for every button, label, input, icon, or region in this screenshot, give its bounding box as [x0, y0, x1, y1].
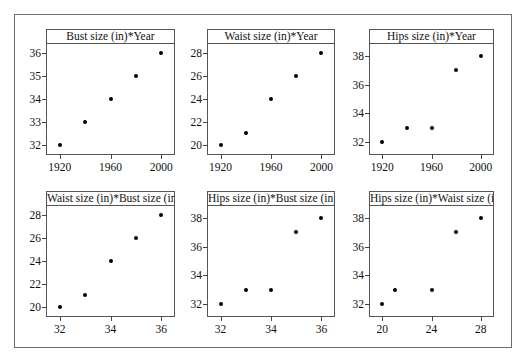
x-axis-tick: [382, 316, 383, 321]
x-axis-tick: [60, 154, 61, 159]
data-point: [405, 126, 409, 130]
x-axis-tick-label: 2000: [310, 161, 333, 173]
y-axis-tick: [203, 99, 208, 100]
y-axis-tick: [42, 122, 47, 123]
x-axis-tick-label: 32: [215, 323, 227, 335]
x-axis-tick: [221, 154, 222, 159]
data-point: [159, 213, 163, 217]
y-axis-tick-label: 26: [191, 70, 203, 82]
data-point: [454, 230, 458, 234]
x-axis-tick: [111, 316, 112, 321]
data-point: [219, 302, 223, 306]
y-axis-tick: [42, 76, 47, 77]
plot-area: 3233343536192019602000: [46, 44, 175, 155]
panel-title: Hips size (in)*Bust size (in): [207, 191, 335, 206]
data-point: [294, 230, 298, 234]
y-axis-tick-label: 34: [30, 93, 42, 105]
data-point: [430, 288, 434, 292]
x-axis-tick-label: 2000: [150, 161, 173, 173]
x-axis-tick: [271, 154, 272, 159]
x-axis-tick-label: 34: [105, 323, 117, 335]
x-axis-tick-label: 1960: [420, 161, 443, 173]
x-axis-tick-label: 28: [475, 323, 487, 335]
y-axis-tick: [42, 261, 47, 262]
panel-title: Bust size (in)*Year: [46, 29, 175, 44]
plot-area: 32343638192019602000: [369, 44, 494, 155]
data-point: [219, 143, 223, 147]
y-axis-tick: [365, 56, 370, 57]
data-point: [393, 288, 397, 292]
x-axis-tick-label: 1920: [209, 161, 232, 173]
y-axis-tick: [203, 218, 208, 219]
x-axis-tick-label: 36: [156, 323, 168, 335]
x-axis-tick-label: 36: [316, 323, 328, 335]
data-point: [134, 74, 138, 78]
x-axis-tick: [161, 154, 162, 159]
data-point: [244, 288, 248, 292]
x-axis-tick: [382, 154, 383, 159]
plot-area: 2022242628192019602000: [207, 44, 335, 155]
y-axis-tick-label: 33: [30, 116, 42, 128]
y-axis-tick: [203, 53, 208, 54]
x-axis-tick: [271, 316, 272, 321]
scatter-panel-6: Hips size (in)*Waist size (in)3234363820…: [369, 191, 494, 317]
y-axis-tick: [42, 145, 47, 146]
y-axis-tick-label: 20: [191, 139, 203, 151]
x-axis-tick: [432, 316, 433, 321]
x-axis-tick: [161, 316, 162, 321]
y-axis-tick-label: 34: [191, 269, 203, 281]
plot-area: 32343638202428: [369, 206, 494, 317]
y-axis-tick: [365, 275, 370, 276]
y-axis-tick: [203, 304, 208, 305]
plot-area: 32343638323436: [207, 206, 335, 317]
y-axis-tick: [365, 85, 370, 86]
scatter-panel-3: Hips size (in)*Year32343638192019602000: [369, 29, 494, 155]
x-axis-tick-label: 24: [426, 323, 438, 335]
data-point: [430, 126, 434, 130]
data-point: [58, 143, 62, 147]
y-axis-tick-label: 36: [191, 241, 203, 253]
y-axis-tick-label: 24: [30, 255, 42, 267]
x-axis-tick: [321, 154, 322, 159]
y-axis-tick-label: 34: [353, 269, 365, 281]
y-axis-tick-label: 24: [191, 93, 203, 105]
data-point: [294, 74, 298, 78]
y-axis-tick-label: 32: [353, 298, 365, 310]
x-axis-tick-label: 1960: [99, 161, 122, 173]
y-axis-tick: [365, 218, 370, 219]
y-axis-tick: [365, 142, 370, 143]
x-axis-tick-label: 1960: [260, 161, 283, 173]
y-axis-tick: [365, 304, 370, 305]
x-axis-tick: [221, 316, 222, 321]
x-axis-tick: [321, 316, 322, 321]
scatter-panel-2: Waist size (in)*Year20222426281920196020…: [207, 29, 335, 155]
data-point: [83, 293, 87, 297]
y-axis-tick-label: 28: [191, 47, 203, 59]
y-axis-tick: [365, 113, 370, 114]
y-axis-tick-label: 36: [30, 47, 42, 59]
data-point: [454, 68, 458, 72]
data-point: [83, 120, 87, 124]
y-axis-tick-label: 36: [353, 79, 365, 91]
y-axis-tick: [203, 76, 208, 77]
y-axis-tick: [42, 284, 47, 285]
data-point: [380, 302, 384, 306]
plot-area: 2022242628323436: [46, 206, 175, 317]
y-axis-tick-label: 36: [353, 241, 365, 253]
y-axis-tick: [42, 215, 47, 216]
y-axis-tick-label: 32: [30, 139, 42, 151]
panel-title: Hips size (in)*Waist size (in): [369, 191, 494, 206]
data-point: [159, 51, 163, 55]
y-axis-tick: [203, 145, 208, 146]
y-axis-tick-label: 32: [353, 136, 365, 148]
x-axis-tick: [481, 154, 482, 159]
y-axis-tick: [365, 247, 370, 248]
panel-title: Hips size (in)*Year: [369, 29, 494, 44]
y-axis-tick: [42, 53, 47, 54]
data-point: [109, 259, 113, 263]
x-axis-tick: [481, 316, 482, 321]
data-point: [319, 51, 323, 55]
y-axis-tick-label: 26: [30, 232, 42, 244]
data-point: [134, 236, 138, 240]
y-axis-tick: [203, 275, 208, 276]
